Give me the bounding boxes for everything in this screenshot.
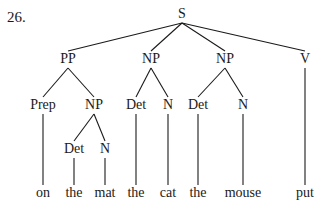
node-det2: Det	[188, 97, 208, 112]
node-s: S	[178, 6, 186, 21]
edge-np3-det3	[74, 114, 94, 141]
node-n2: N	[238, 97, 248, 112]
node-n1: N	[163, 97, 173, 112]
edge-np2-n2	[225, 68, 243, 97]
edge-s-v	[182, 23, 305, 51]
edge-pp-prep	[43, 68, 68, 97]
node-pp: PP	[60, 51, 76, 66]
leaf-word-w_the3: the	[189, 185, 206, 200]
edge-np1-det1	[136, 68, 151, 97]
tree-nodes: SPPNPNPVPrepNPDetNDetNDetNonthematthecat…	[30, 6, 314, 200]
edge-s-pp	[68, 23, 182, 51]
leaf-word-w_cat: cat	[160, 185, 176, 200]
leaf-word-w_on: on	[36, 185, 50, 200]
node-np1: NP	[142, 51, 160, 66]
tree-edges	[43, 23, 305, 185]
leaf-word-w_put: put	[296, 185, 314, 200]
node-np3: NP	[85, 97, 103, 112]
node-n3: N	[100, 141, 110, 156]
edge-np2-det2	[198, 68, 225, 97]
edge-pp-np3	[68, 68, 94, 97]
leaf-word-w_the1: the	[65, 185, 82, 200]
edge-np3-n3	[94, 114, 105, 141]
node-v: V	[300, 51, 310, 66]
edge-np1-n1	[151, 68, 168, 97]
leaf-word-w_the2: the	[127, 185, 144, 200]
leaf-word-w_mat: mat	[95, 185, 116, 200]
leaf-word-w_mouse: mouse	[225, 185, 262, 200]
node-det3: Det	[64, 141, 84, 156]
edge-s-np2	[182, 23, 225, 51]
node-prep: Prep	[30, 97, 56, 112]
syntax-tree: SPPNPNPVPrepNPDetNDetNDetNonthematthecat…	[0, 0, 320, 208]
node-np2: NP	[216, 51, 234, 66]
node-det1: Det	[126, 97, 146, 112]
